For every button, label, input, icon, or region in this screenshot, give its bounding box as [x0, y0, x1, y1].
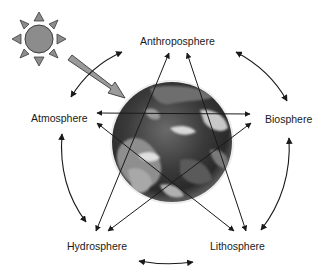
label-lithosphere: Lithosphere	[210, 240, 265, 252]
arrow-anthroposphere-biosphere	[236, 52, 287, 101]
label-hydrosphere: Hydrosphere	[67, 240, 127, 252]
label-biosphere: Biosphere	[265, 113, 312, 125]
spheres-diagram: Anthroposphere Atmosphere Biosphere Hydr…	[0, 0, 322, 274]
label-atmosphere: Atmosphere	[31, 112, 88, 124]
sun-icon	[12, 12, 66, 66]
arrow-hydrosphere-atmosphere	[62, 134, 87, 222]
arrow-lithosphere-hydrosphere	[139, 261, 193, 264]
label-anthroposphere: Anthroposphere	[140, 35, 215, 47]
earth-globe-icon	[110, 80, 234, 204]
sun-energy-arrow	[68, 55, 125, 98]
arrow-biosphere-lithosphere	[261, 138, 289, 230]
